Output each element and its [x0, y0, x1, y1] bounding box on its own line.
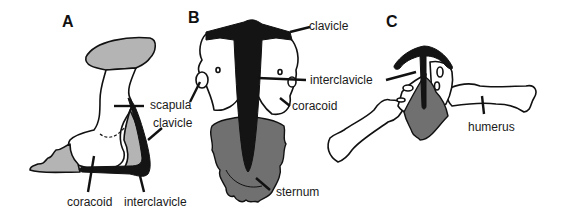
panel-b-letter: B	[188, 9, 200, 26]
foramen-c2	[397, 98, 405, 102]
leader-scapula-b	[190, 82, 200, 102]
humerus-right-c	[447, 84, 536, 112]
label-humerus-c: humerus	[468, 120, 515, 134]
panel-b: B clavicle interclavicle coracoid sternu…	[188, 9, 373, 202]
label-interclavicle-b: interclavicle	[310, 73, 373, 87]
label-clavicle-b: clavicle	[309, 19, 349, 33]
label-clavicle-a: clavicle	[153, 116, 193, 130]
leader-clavicle-b	[290, 27, 310, 32]
scapula-body	[68, 68, 136, 169]
foramen-right-b	[278, 70, 282, 75]
humerus-left-c	[328, 100, 404, 162]
label-sternum-b: sternum	[276, 185, 319, 199]
scapula-blade	[86, 38, 155, 70]
leader-interclavicle-c	[386, 72, 416, 80]
foramen-left-b	[216, 68, 220, 73]
label-interclavicle-a: interclavicle	[124, 195, 187, 209]
label-coracoid-b: coracoid	[292, 99, 337, 113]
leader-interclavicle-a	[140, 176, 144, 192]
figure-canvas: A scapula clavicle coracoid interclavicl…	[0, 0, 566, 219]
panel-a-letter: A	[62, 13, 74, 30]
panel-a: A scapula clavicle coracoid interclavicl…	[30, 13, 193, 209]
panel-c-letter: C	[386, 13, 398, 30]
label-scapula-a: scapula	[150, 98, 192, 112]
label-coracoid-a: coracoid	[67, 195, 112, 209]
panel-c: C humerus	[328, 13, 536, 162]
foramen-c3	[437, 67, 443, 77]
shoulder-girdle-figure: A scapula clavicle coracoid interclavicl…	[0, 0, 566, 219]
foramen-c1	[403, 85, 413, 91]
